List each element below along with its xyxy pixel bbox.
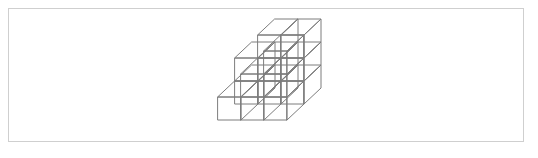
cube-face: [218, 97, 241, 120]
figure-root: [0, 0, 538, 158]
isometric-cube-stack-drawing: [0, 0, 538, 158]
